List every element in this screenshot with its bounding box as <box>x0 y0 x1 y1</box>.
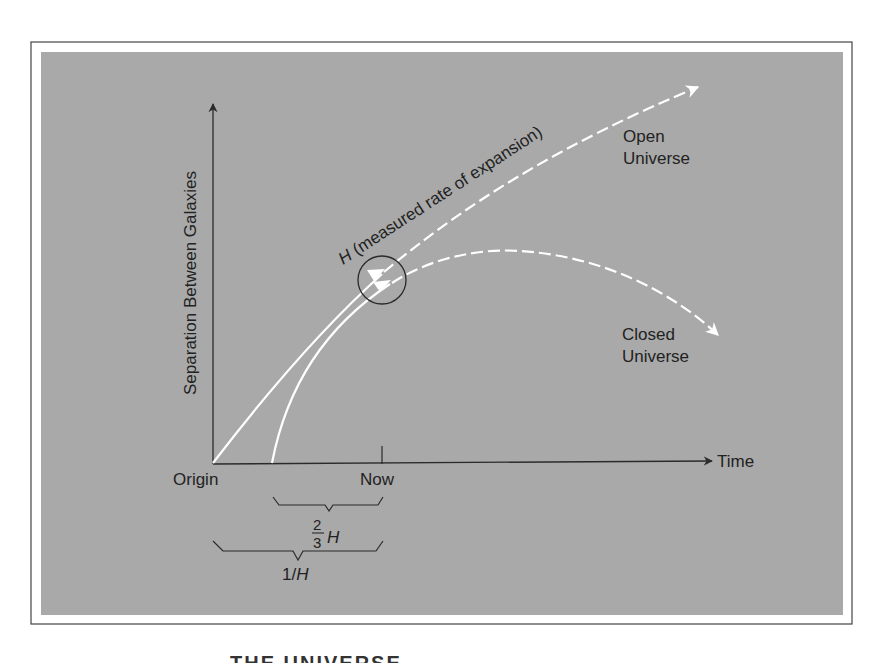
svg-text:3: 3 <box>313 534 321 551</box>
figure-caption-partial: THE UNIVERSE <box>40 652 440 663</box>
expansion-diagram: Separation Between Galaxies Time Origin … <box>0 0 886 663</box>
origin-label: Origin <box>173 470 218 489</box>
svg-text:H: H <box>327 528 340 547</box>
y-axis-label: Separation Between Galaxies <box>181 171 200 395</box>
x-axis-label: Time <box>717 452 754 471</box>
figure-panel <box>41 52 843 615</box>
now-label: Now <box>360 470 395 489</box>
one-over-h-label: 1/H <box>282 565 309 584</box>
svg-text:2: 2 <box>313 516 321 533</box>
